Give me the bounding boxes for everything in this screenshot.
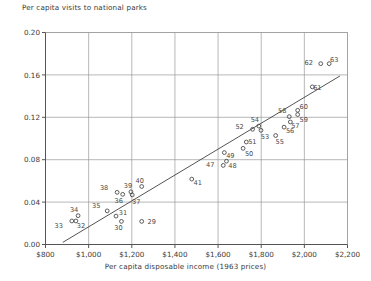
data-point-label: 53 — [261, 133, 269, 141]
data-point-label: 38 — [100, 184, 108, 192]
x-tick-label: $1,800 — [249, 250, 275, 259]
data-point-label: 41 — [194, 179, 202, 187]
data-point-label: 52 — [235, 123, 243, 131]
data-point-label: 39 — [124, 182, 132, 190]
data-point-marker[interactable] — [121, 192, 125, 196]
data-point-label: 63 — [330, 56, 338, 64]
data-point-label: 57 — [291, 122, 299, 130]
data-point-marker[interactable] — [140, 219, 144, 223]
data-point-label: 37 — [132, 198, 140, 206]
data-point-label: 40 — [136, 177, 144, 185]
x-tick-label: $1,400 — [162, 250, 188, 259]
data-point-label: 48 — [228, 162, 236, 170]
data-point-label: 54 — [251, 116, 259, 124]
trend-line — [63, 76, 340, 242]
data-point-label: 31 — [119, 209, 127, 217]
data-point-label: 55 — [275, 138, 283, 146]
data-point-label: 47 — [206, 161, 214, 169]
data-point-marker[interactable] — [70, 219, 74, 223]
data-point-label: 49 — [226, 152, 234, 160]
data-point-label: 29 — [148, 218, 156, 226]
data-point-label: 51 — [248, 138, 256, 146]
y-tick-label: 0.08 — [24, 155, 40, 164]
y-tick-label: 0.04 — [24, 198, 40, 207]
chart-root: Per capita visits to national parks 0.00… — [0, 0, 371, 281]
y-tick-label: 0.12 — [24, 113, 40, 122]
data-point-label: 34 — [70, 206, 78, 214]
data-point-marker[interactable] — [105, 209, 109, 213]
y-axis-ticks: 0.000.040.080.120.160.20 — [24, 28, 46, 249]
data-point-label: 60 — [299, 103, 307, 111]
x-tick-label: $1,200 — [119, 250, 145, 259]
x-tick-label: $800 — [36, 250, 55, 259]
data-point-label: 32 — [77, 222, 85, 230]
data-point-label: 50 — [245, 150, 253, 158]
data-point-marker[interactable] — [319, 62, 323, 66]
data-point-label: 62 — [305, 59, 313, 67]
data-points: 2930313233343536373839404147484950515253… — [55, 56, 339, 233]
data-point-label: 30 — [114, 224, 122, 232]
data-point-marker[interactable] — [115, 190, 119, 194]
data-point-label: 61 — [313, 84, 321, 92]
data-point-marker[interactable] — [114, 214, 118, 218]
data-point-marker[interactable] — [120, 219, 124, 223]
x-tick-label: $2,000 — [292, 250, 318, 259]
x-tick-label: $1,600 — [205, 250, 231, 259]
x-tick-label: $1,000 — [76, 250, 102, 259]
data-point-label: 59 — [299, 116, 307, 124]
data-point-marker[interactable] — [76, 214, 80, 218]
grid-lines — [46, 33, 348, 245]
x-axis-ticks: $800$1,000$1,200$1,400$1,600$1,800$2,000… — [36, 245, 360, 260]
data-point-label: 35 — [92, 202, 100, 210]
data-point-marker[interactable] — [221, 164, 225, 168]
data-point-marker[interactable] — [287, 115, 291, 119]
y-tick-label: 0.00 — [24, 240, 40, 249]
scatter-plot: 0.000.040.080.120.160.20$800$1,000$1,200… — [0, 0, 371, 281]
y-tick-label: 0.16 — [24, 71, 40, 80]
x-axis-title: Per capita disposable income (1963 price… — [0, 262, 371, 271]
y-tick-label: 0.20 — [24, 28, 40, 37]
data-point-label: 58 — [278, 107, 286, 115]
axes — [46, 33, 348, 245]
x-tick-label: $2,200 — [335, 250, 361, 259]
data-point-label: 33 — [55, 222, 63, 230]
data-point-label: 36 — [115, 197, 123, 205]
data-point-marker[interactable] — [140, 185, 144, 189]
